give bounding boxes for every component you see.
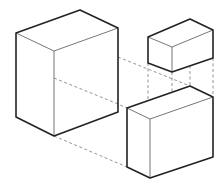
projection-line-bottom xyxy=(54,136,127,167)
large-box xyxy=(16,10,118,136)
projection-diagram xyxy=(0,0,219,189)
medium-box xyxy=(127,86,213,178)
small-box xyxy=(148,19,213,72)
